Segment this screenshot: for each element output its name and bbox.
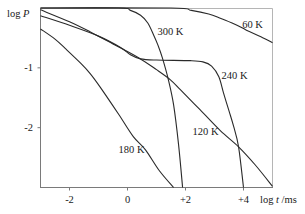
curve-labels: 60 K300 K240 K120 K180 K [119,19,264,156]
curve-180k [41,29,174,188]
x-tick-label: +4 [238,194,250,205]
y-tick-label: -1 [24,62,33,73]
x-tick-label: +2 [180,194,191,205]
curve-60k [41,8,273,43]
chart: -20+2+4-1-2 60 K300 K240 K120 K180 K log… [0,0,305,214]
y-tick-label: -2 [24,122,33,133]
y-axis-label: log P [7,8,30,19]
curve-label-180k: 180 K [119,144,145,155]
curve-label-120k: 120 K [193,126,219,137]
curve-label-300k: 300 K [157,26,183,37]
x-tick-label: -2 [65,194,74,205]
curve-240k [41,16,244,188]
x-axis-label: log t /ms [260,194,297,205]
curve-label-60k: 60 K [242,19,263,30]
curve-label-240k: 240 K [222,70,248,81]
x-tick-label: 0 [125,194,130,205]
